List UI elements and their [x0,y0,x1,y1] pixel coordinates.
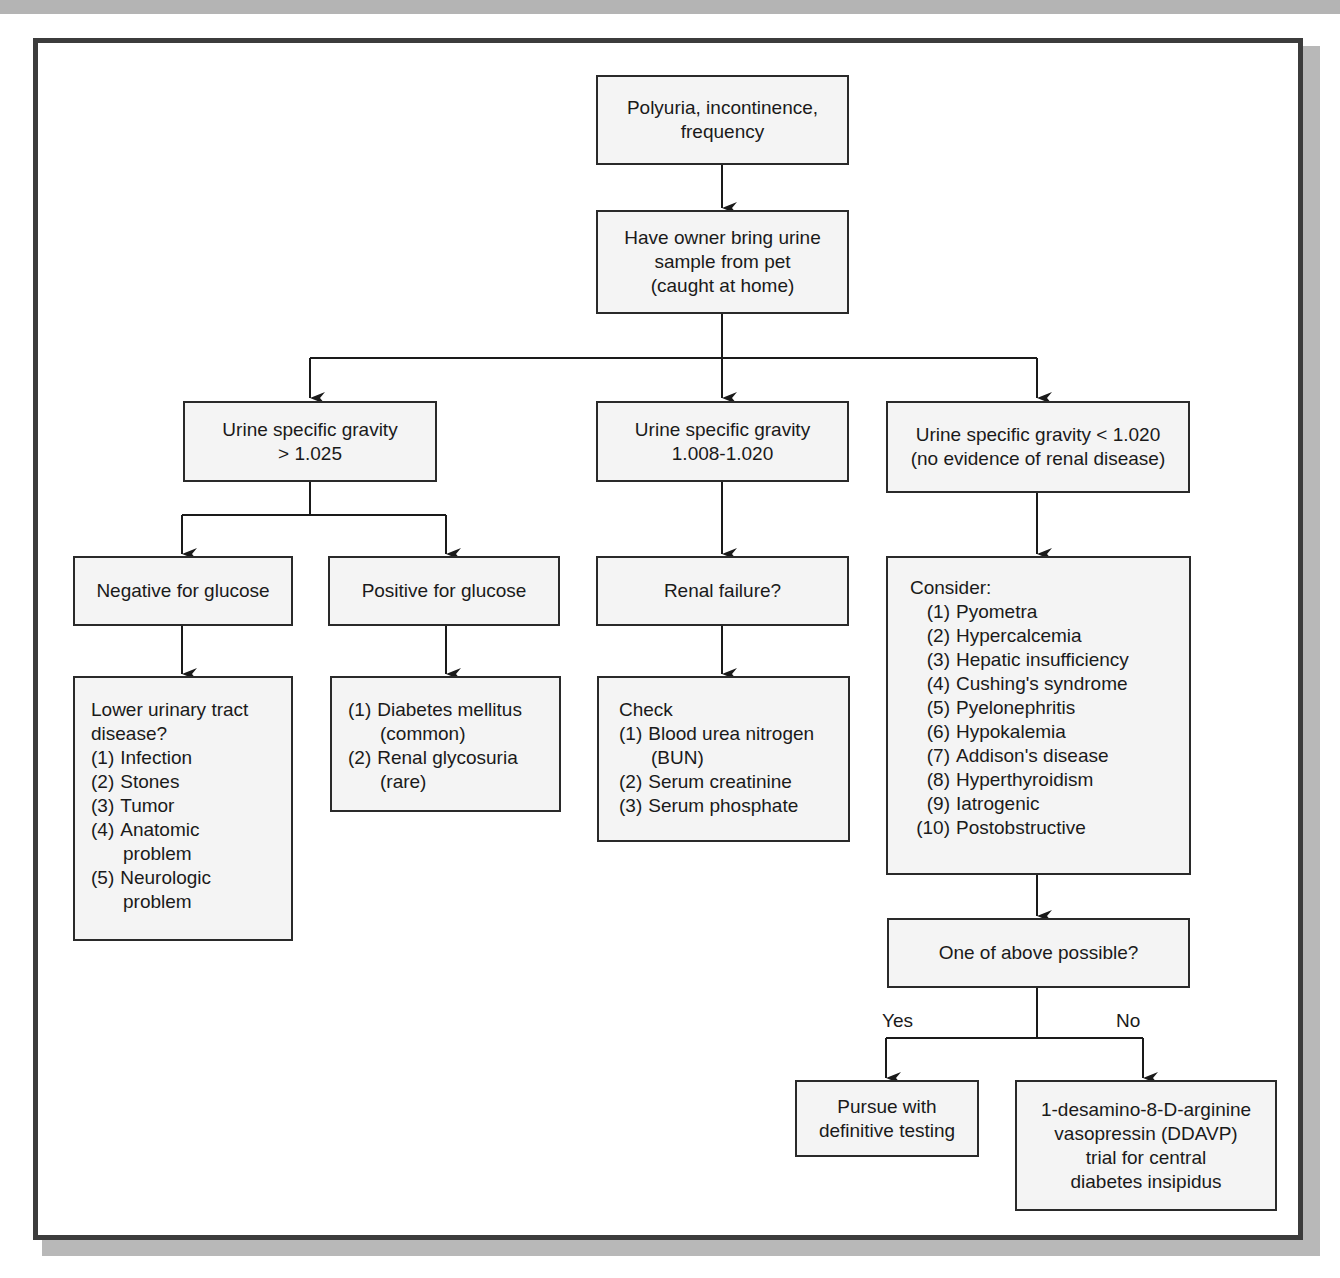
node-text: Positive for glucose [362,579,527,603]
node-text: definitive testing [819,1119,955,1143]
list-item: (10)Postobstructive [900,816,1173,840]
list-heading: Check [619,698,832,722]
node-text: 1.008-1.020 [672,442,773,466]
node-text: Urine specific gravity [222,418,397,442]
list-item-continuation: (common) [348,722,543,746]
node-text: One of above possible? [939,941,1139,965]
node-text: frequency [681,120,764,144]
top-band [0,0,1340,14]
list-item: (2)Renal glycosuria [348,746,543,770]
list-item-continuation: problem [91,890,275,914]
list-item: (1)Infection [91,746,275,770]
node-text: Polyuria, incontinence, [627,96,818,120]
list-item: (2)Stones [91,770,275,794]
list-item: (7)Addison's disease [910,744,1173,768]
list-item: (1)Diabetes mellitus [348,698,543,722]
node-text: Urine specific gravity < 1.020 [916,423,1160,447]
node-decision: One of above possible? [887,918,1190,988]
node-lower-urinary-tract: Lower urinary tract disease? (1)Infectio… [73,676,293,941]
list-heading: Lower urinary tract [91,698,275,722]
node-text: vasopressin (DDAVP) [1054,1122,1237,1146]
list-item: (6)Hypokalemia [910,720,1173,744]
list-item: (1)Pyometra [910,600,1173,624]
list-heading: Consider: [910,576,1173,600]
list-item: (5)Pyelonephritis [910,696,1173,720]
node-text: > 1.025 [278,442,342,466]
node-sg-mid: Urine specific gravity 1.008-1.020 [596,401,849,482]
node-text: Negative for glucose [96,579,269,603]
node-text: (no evidence of renal disease) [911,447,1166,471]
node-text: Have owner bring urine [624,226,820,250]
list-item: (2)Hypercalcemia [910,624,1173,648]
node-urine-sample: Have owner bring urine sample from pet (… [596,210,849,314]
list-item-continuation: (rare) [348,770,543,794]
node-positive-glucose: Positive for glucose [328,556,560,626]
node-text: sample from pet [654,250,790,274]
node-consider: Consider: (1)Pyometra (2)Hypercalcemia (… [886,556,1191,875]
list-item: (3)Hepatic insufficiency [910,648,1173,672]
node-text: diabetes insipidus [1070,1170,1221,1194]
node-text: Renal failure? [664,579,781,603]
node-text: 1-desamino-8-D-arginine [1041,1098,1251,1122]
node-sg-high: Urine specific gravity > 1.025 [183,401,437,482]
list-item-continuation: problem [91,842,275,866]
node-text: Pursue with [837,1095,936,1119]
node-pursue-testing: Pursue with definitive testing [795,1080,979,1157]
list-heading: disease? [91,722,275,746]
node-ddavp-trial: 1-desamino-8-D-arginine vasopressin (DDA… [1015,1080,1277,1211]
list-item: (4)Anatomic [91,818,275,842]
no-label: No [1116,1009,1140,1033]
list-item: (2)Serum creatinine [619,770,832,794]
yes-label: Yes [882,1009,913,1033]
list-item: (3)Serum phosphate [619,794,832,818]
list-item: (5)Neurologic [91,866,275,890]
list-item: (4)Cushing's syndrome [910,672,1173,696]
node-text: (caught at home) [651,274,795,298]
list-item: (8)Hyperthyroidism [910,768,1173,792]
list-item: (1)Blood urea nitrogen [619,722,832,746]
node-sg-low: Urine specific gravity < 1.020 (no evide… [886,401,1190,493]
list-item-continuation: (BUN) [619,746,832,770]
node-text: Urine specific gravity [635,418,810,442]
node-presenting-signs: Polyuria, incontinence, frequency [596,75,849,165]
node-negative-glucose: Negative for glucose [73,556,293,626]
node-text: trial for central [1086,1146,1206,1170]
list-item: (3)Tumor [91,794,275,818]
node-glucose-causes: (1)Diabetes mellitus (common) (2)Renal g… [330,676,561,812]
node-check-renal: Check (1)Blood urea nitrogen (BUN) (2)Se… [597,676,850,842]
node-renal-failure: Renal failure? [596,556,849,626]
list-item: (9)Iatrogenic [910,792,1173,816]
